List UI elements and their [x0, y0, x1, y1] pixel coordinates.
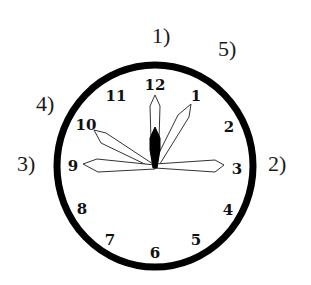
- numeral-10: 10: [76, 116, 97, 134]
- numeral-5: 5: [191, 231, 201, 249]
- numeral-12: 12: [145, 76, 166, 94]
- option-label-5: 5): [218, 38, 236, 60]
- numeral-1: 1: [191, 87, 201, 105]
- option-label-1: 1): [152, 25, 170, 47]
- numeral-7: 7: [105, 231, 115, 249]
- option-label-4: 4): [36, 93, 54, 115]
- option-label-3: 3): [17, 153, 35, 175]
- numeral-11: 11: [106, 87, 127, 105]
- numeral-6: 6: [150, 244, 160, 262]
- numeral-4: 4: [223, 201, 233, 219]
- option-label-2: 2): [268, 153, 286, 175]
- numeral-3: 3: [232, 160, 242, 178]
- numeral-8: 8: [77, 200, 87, 218]
- clock-diagram: 12 1 2 3 4 5 6 7 8 9 10 11 1) 2) 3) 4) 5…: [0, 0, 311, 285]
- numeral-2: 2: [224, 118, 234, 136]
- numeral-9: 9: [68, 157, 78, 175]
